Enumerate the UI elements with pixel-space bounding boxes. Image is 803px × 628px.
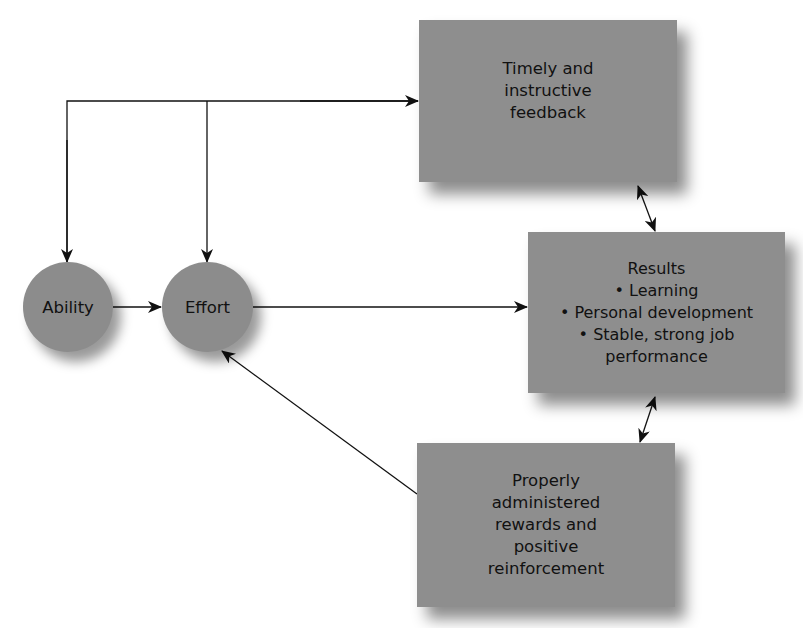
results-item-learning: • Learning [615, 280, 699, 302]
rewards-line-2: administered [492, 492, 601, 514]
results-heading: Results [628, 258, 686, 280]
rewards-node: Properly administered rewards and positi… [417, 443, 675, 607]
rewards-to-effort-arrow [222, 351, 417, 494]
ability-node: Ability [23, 262, 113, 352]
feedback-line-2: instructive [504, 80, 591, 102]
results-item-job-performance-1: • Stable, strong job [579, 324, 735, 346]
results-node: Results • Learning • Personal developmen… [528, 232, 785, 393]
rewards-line-3: rewards and [495, 514, 597, 536]
feedback-line-1: Timely and [502, 58, 593, 80]
ability-label: Ability [42, 298, 94, 317]
effort-label: Effort [185, 298, 230, 317]
feedback-to-ability-effort-connector [67, 101, 418, 262]
rewards-line-1: Properly [512, 470, 580, 492]
effort-node: Effort [162, 262, 253, 352]
feedback-results-bidirectional-arrow [638, 186, 655, 231]
results-item-job-performance-2: performance [605, 346, 707, 368]
rewards-line-4: positive [514, 536, 579, 558]
results-rewards-bidirectional-arrow [640, 397, 655, 442]
results-item-personal-development: • Personal development [560, 302, 753, 324]
feedback-line-3: feedback [510, 102, 586, 124]
rewards-line-5: reinforcement [488, 558, 604, 580]
feedback-node: Timely and instructive feedback [419, 20, 677, 182]
